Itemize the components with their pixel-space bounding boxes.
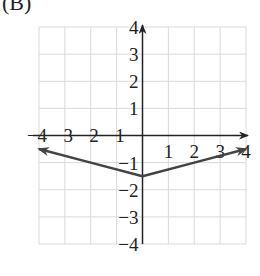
y-tick-label: 2 [129, 71, 139, 92]
y-tick-label: −3 [118, 207, 138, 228]
y-tick-label: −4 [118, 234, 139, 255]
y-tick-label: 4 [129, 17, 139, 38]
x-tick-label: −4 [27, 125, 48, 146]
y-tick-label: 3 [129, 44, 139, 65]
graph: −4−3−2−112344321−1−2−3−4 [0, 0, 260, 276]
x-tick-label: −1 [105, 125, 125, 146]
x-tick-label: 1 [164, 141, 174, 162]
y-tick-label: 1 [129, 98, 139, 119]
x-tick-label: −2 [79, 125, 99, 146]
x-tick-label: 3 [215, 141, 225, 162]
x-tick-label: −3 [53, 125, 73, 146]
x-tick-label: 2 [190, 141, 200, 162]
y-tick-label: −2 [118, 180, 138, 201]
